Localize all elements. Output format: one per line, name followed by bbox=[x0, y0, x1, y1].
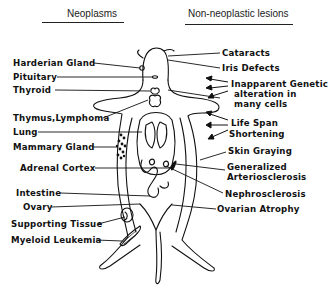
label-ovarian-atrophy: Ovarian Atrophy bbox=[217, 204, 300, 214]
label-lung: Lung bbox=[13, 127, 38, 137]
label-ovary: Ovary bbox=[23, 202, 53, 212]
header-non-neoplastic: Non-neoplastic lesions bbox=[188, 8, 289, 19]
body-outline-right bbox=[168, 80, 219, 271]
label-adrenal-cortex: Adrenal Cortex bbox=[20, 163, 95, 173]
label-mammary-gland: Mammary Gland bbox=[13, 142, 95, 152]
label-nephrosclerosis: Nephrosclerosis bbox=[225, 189, 306, 199]
label-inapparent-genetic: Inapparent Genetic bbox=[231, 79, 328, 89]
whisker-right bbox=[164, 50, 174, 52]
label-intestine: Intestine bbox=[16, 188, 61, 198]
label-thyroid: Thyroid bbox=[13, 85, 51, 95]
label-myeloid-leukemia: Myeloid Leukemia bbox=[11, 235, 102, 245]
mammary-gland-dots bbox=[116, 134, 127, 160]
label-pituitary: Pituitary bbox=[13, 72, 57, 82]
whisker-left bbox=[138, 50, 143, 58]
header-non-neoplastic-underline bbox=[185, 24, 293, 25]
arrows bbox=[206, 76, 228, 139]
label-harderian-gland: Harderian Gland bbox=[13, 58, 95, 68]
label-many-cells: many cells bbox=[234, 99, 287, 109]
label-generalized: Generalized bbox=[227, 162, 287, 172]
label-cataracts: Cataracts bbox=[222, 48, 270, 58]
header-neoplasms: Neoplasms bbox=[67, 8, 117, 19]
label-alteration-in: alteration in bbox=[234, 89, 296, 99]
label-thymus-lymphoma: Thymus,Lymphoma bbox=[13, 113, 109, 123]
label-shortening: Shortening bbox=[229, 129, 285, 139]
header-neoplasms-underline bbox=[42, 22, 124, 23]
label-life-span: Life Span bbox=[231, 118, 278, 128]
label-skin-graying: Skin Graying bbox=[228, 146, 292, 156]
label-arteriosclerosis: Arteriosclerosis bbox=[227, 172, 306, 182]
label-supporting-tissue: Supporting Tissue bbox=[11, 219, 102, 229]
label-iris-defects: Iris Defects bbox=[222, 63, 280, 73]
mouse-head-outline bbox=[143, 48, 169, 80]
